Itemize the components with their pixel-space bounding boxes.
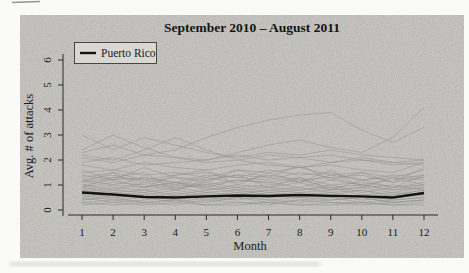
legend-label: Puerto Rico (101, 47, 156, 59)
scan-shadow (10, 262, 320, 266)
x-tick-label: 7 (266, 226, 272, 238)
x-tick-label: 11 (388, 226, 399, 238)
x-tick-label: 1 (79, 226, 85, 238)
y-tick-label: 6 (41, 57, 53, 63)
figure-svg: 1234567891011120123456 September 2010 – … (0, 0, 469, 273)
y-tick-label: 0 (41, 207, 53, 213)
x-tick-label: 12 (418, 226, 429, 238)
x-tick-label: 8 (297, 226, 303, 238)
y-tick-label: 4 (41, 107, 53, 113)
y-tick-label: 3 (41, 132, 53, 138)
y-axis-title: Avg. # of attacks (22, 94, 36, 179)
x-tick-label: 3 (141, 226, 147, 238)
x-tick-label: 5 (204, 226, 210, 238)
x-tick-label: 9 (328, 226, 334, 238)
y-tick-label: 1 (41, 182, 53, 188)
x-tick-label: 6 (235, 226, 241, 238)
x-tick-label: 4 (173, 226, 179, 238)
chart-title: September 2010 – August 2011 (164, 20, 340, 35)
scan-artifact-line (12, 2, 40, 3)
y-tick-label: 2 (41, 157, 53, 163)
x-tick-label: 2 (110, 226, 116, 238)
scanned-figure-page: 1234567891011120123456 September 2010 – … (0, 0, 469, 273)
x-tick-label: 10 (356, 226, 368, 238)
x-axis-title: Month (233, 239, 267, 253)
y-tick-label: 5 (41, 82, 53, 88)
legend: Puerto Rico (75, 43, 157, 64)
